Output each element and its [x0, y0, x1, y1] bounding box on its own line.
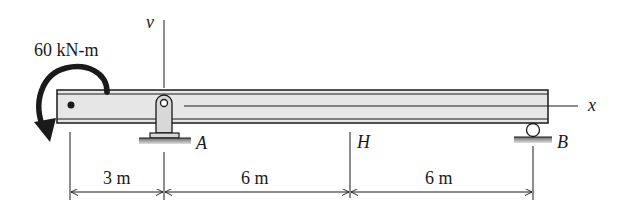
dimension-label-3: 6 m — [425, 168, 453, 188]
moment-label: 60 kN-m — [34, 40, 99, 60]
point-h-label: H — [356, 132, 371, 152]
point-a-label: A — [195, 133, 208, 153]
dimension-label-2: 6 m — [241, 168, 269, 188]
point-b-label: B — [557, 132, 568, 152]
v-axis-label: v — [146, 12, 154, 32]
beam-end-dot — [68, 102, 75, 109]
dimension-label-1: 3 m — [103, 168, 131, 188]
roller-support-b — [514, 124, 552, 144]
x-axis-label: x — [587, 95, 596, 115]
v-axis: v — [146, 12, 164, 88]
beam-diagram: v x 60 kN-m A H B — [0, 0, 617, 215]
